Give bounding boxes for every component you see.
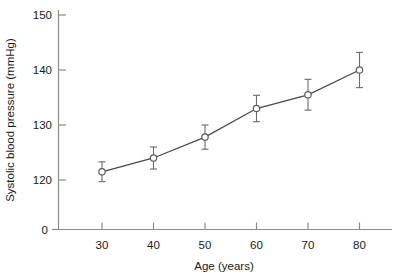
data-point-marker	[253, 105, 259, 111]
data-point-marker	[99, 169, 105, 175]
data-markers	[99, 67, 363, 175]
y-tick-label-120: 120	[33, 174, 52, 186]
y-tick-label-150: 150	[33, 9, 52, 21]
x-tick-label-30: 30	[96, 239, 109, 251]
data-point-marker	[305, 92, 311, 98]
y-axis-title: Systolic blood pressure (mmHg)	[4, 38, 16, 202]
x-tick-label-50: 50	[199, 239, 212, 251]
x-tick-label-40: 40	[147, 239, 160, 251]
data-point-marker	[202, 134, 208, 140]
chart-canvas: 150 140 130 120 0 30 40 50 60 70 80 Age …	[0, 0, 397, 277]
x-tick-label-80: 80	[353, 239, 366, 251]
x-tick-label-70: 70	[302, 239, 315, 251]
y-tick-label-0: 0	[42, 224, 48, 236]
x-axis-title: Age (years)	[194, 260, 254, 272]
chart-figure: 150 140 130 120 0 30 40 50 60 70 80 Age …	[0, 0, 397, 277]
y-tick-label-130: 130	[33, 119, 52, 131]
data-point-marker	[150, 155, 156, 161]
x-ticks	[102, 223, 360, 230]
data-point-marker	[356, 67, 362, 73]
y-tick-label-140: 140	[33, 64, 52, 76]
x-tick-label-60: 60	[250, 239, 263, 251]
series-line	[102, 70, 360, 172]
